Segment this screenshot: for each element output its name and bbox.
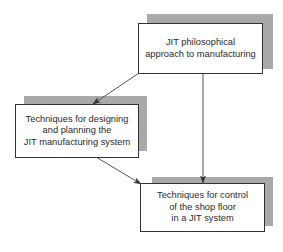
arrow-design-to-shop-floor: [96, 157, 141, 184]
node-design-planning-label: Techniques for designing and planning th…: [24, 114, 130, 149]
node-shop-floor-control-label: Techniques for control of the shop floor…: [157, 190, 248, 225]
node-jit-philosophy-label: JIT philosophical approach to manufactur…: [145, 37, 256, 60]
node-shop-floor-control: Techniques for control of the shop floor…: [140, 183, 265, 232]
node-design-planning: Techniques for designing and planning th…: [15, 104, 139, 158]
arrow-philosophy-to-design: [93, 73, 139, 104]
node-jit-philosophy: JIT philosophical approach to manufactur…: [138, 23, 263, 74]
